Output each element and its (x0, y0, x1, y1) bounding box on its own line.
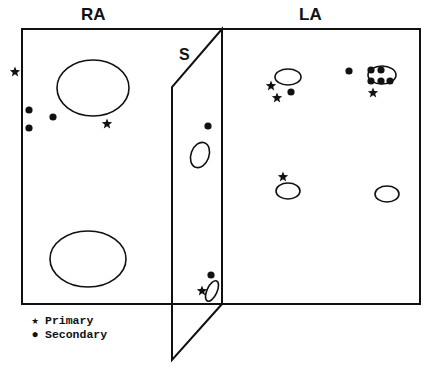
primary-star-icon (102, 119, 112, 129)
secondary-dot-icon (386, 77, 393, 84)
dot-icon: ● (30, 328, 40, 342)
secondary-dot-icon (345, 67, 352, 74)
secondary-dot-icon (25, 106, 32, 113)
secondary-dot-icon (377, 66, 384, 73)
secondary-dot-icon (49, 113, 56, 120)
secondary-dot-icon (204, 122, 211, 129)
primary-star-icon (368, 88, 378, 98)
secondary-dot-icon (287, 88, 294, 95)
vessel-orifice-s (187, 140, 213, 171)
legend-secondary-label: Secondary (45, 328, 107, 342)
vessel-orifice-ra (50, 231, 126, 287)
secondary-dot-icon (377, 77, 384, 84)
secondary-dot-icon (367, 77, 374, 84)
primary-star-icon (10, 67, 20, 77)
legend: ★ Primary ● Secondary (30, 314, 107, 342)
secondary-dot-icon (207, 271, 214, 278)
secondary-dot-icon (25, 124, 32, 131)
vessel-orifice-la (375, 186, 399, 202)
secondary-dot-icon (367, 66, 374, 73)
ra-label: RA (81, 5, 106, 25)
left-atrium-outline (222, 29, 420, 304)
vessel-orifice-la (275, 69, 301, 85)
atrial-diagram: RA LA S ★ Primary ● Secondary (0, 0, 433, 376)
legend-secondary: ● Secondary (30, 328, 107, 342)
vessel-orifice-la (276, 183, 300, 199)
primary-star-icon (278, 172, 288, 182)
legend-primary-label: Primary (45, 314, 93, 328)
la-label: LA (299, 5, 322, 25)
septum-label: S (179, 46, 190, 64)
vessel-orifice-ra (57, 60, 129, 116)
vessel-orifice-s (203, 279, 221, 303)
septum-outline (172, 29, 222, 360)
legend-primary: ★ Primary (30, 314, 107, 328)
primary-star-icon (272, 93, 282, 103)
primary-star-icon (266, 81, 276, 91)
star-icon: ★ (30, 314, 40, 328)
